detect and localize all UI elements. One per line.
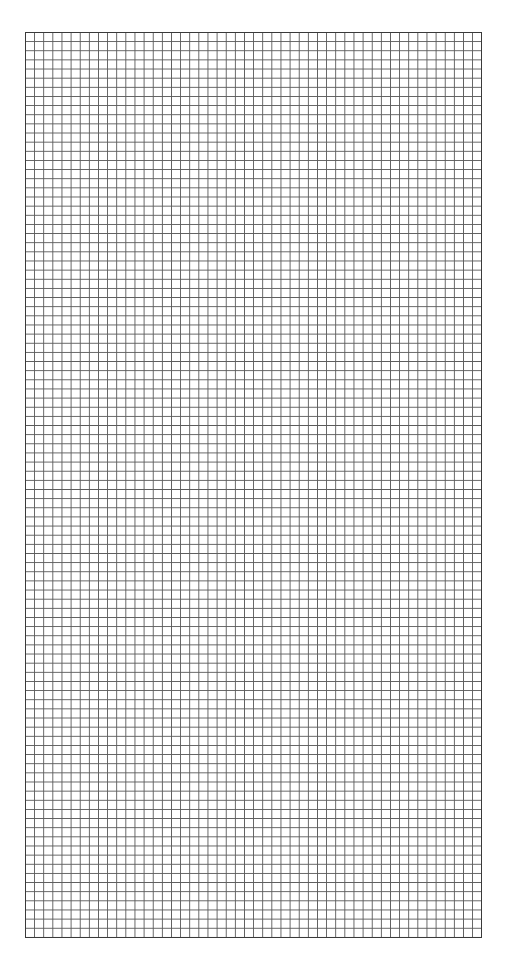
graph-paper-grid	[25, 32, 482, 938]
